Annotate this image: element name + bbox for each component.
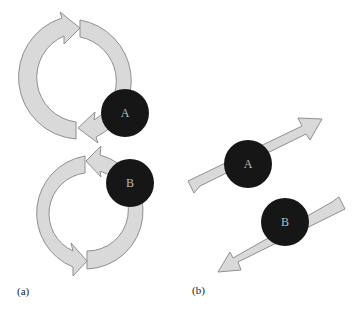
cycle-arrow-left-icon	[37, 156, 87, 276]
panel-b-linear-b: B	[218, 197, 345, 272]
particle-b-label: B	[281, 215, 289, 229]
cycle-arrow-left-icon	[19, 12, 80, 139]
diagram-canvas: A B A B	[0, 0, 361, 312]
panel-a-label: (a)	[17, 285, 29, 297]
panel-a-cycle-a: A	[19, 12, 149, 143]
panel-b-label: (b)	[192, 284, 205, 296]
panel-b-linear-a: A	[188, 118, 322, 193]
particle-a-label: A	[244, 157, 253, 171]
particle-a-label: A	[121, 106, 130, 120]
panel-a-cycle-b: B	[37, 146, 154, 276]
particle-b-label: B	[126, 176, 134, 190]
